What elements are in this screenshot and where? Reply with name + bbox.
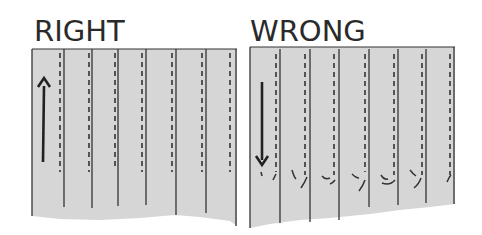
right-panel <box>32 49 237 226</box>
wrong-panel <box>250 47 455 228</box>
pleat-diagram <box>0 0 482 235</box>
